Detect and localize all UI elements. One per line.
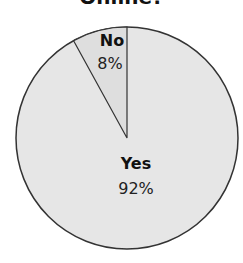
slice-value-no: 8% xyxy=(97,54,122,73)
slice-label-yes: Yes xyxy=(120,154,152,173)
pie-chart: No 8% Yes 92% xyxy=(0,0,243,263)
slice-label-no: No xyxy=(100,31,124,50)
slice-value-yes: 92% xyxy=(118,179,154,198)
